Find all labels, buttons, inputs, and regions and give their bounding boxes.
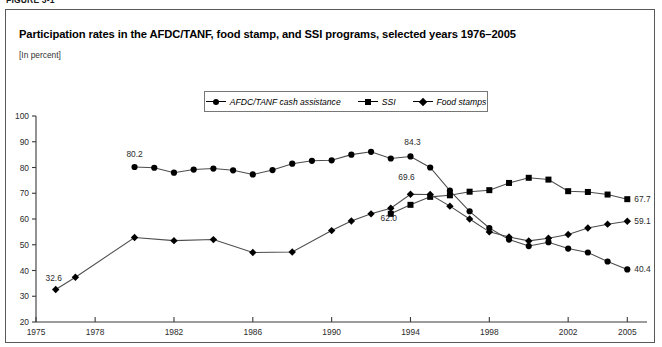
x-tick-label: 2005 bbox=[618, 327, 637, 337]
data-point bbox=[249, 249, 256, 256]
data-point bbox=[191, 166, 197, 172]
data-point bbox=[367, 210, 374, 217]
y-tick-label: 50 bbox=[20, 240, 30, 250]
data-point bbox=[585, 249, 591, 255]
data-point bbox=[526, 175, 532, 181]
data-point bbox=[545, 177, 551, 183]
data-point bbox=[466, 215, 473, 222]
data-point bbox=[624, 196, 630, 202]
data-point bbox=[387, 204, 394, 211]
data-point bbox=[269, 167, 275, 173]
data-point bbox=[72, 274, 79, 281]
point-value-label: 32.6 bbox=[46, 273, 63, 283]
point-value-label: 62.0 bbox=[381, 213, 398, 223]
y-axis: 2030405060708090100 bbox=[15, 111, 36, 327]
x-tick-label: 1990 bbox=[322, 327, 341, 337]
data-point bbox=[565, 188, 571, 194]
x-tick-label: 2002 bbox=[559, 327, 578, 337]
data-point bbox=[584, 224, 591, 231]
point-value-label: 67.7 bbox=[634, 194, 651, 204]
data-point bbox=[131, 164, 137, 170]
series-food-stamps bbox=[52, 191, 631, 294]
chart-plot-area: 2030405060708090100 19751978198219861990… bbox=[6, 10, 656, 344]
series-line bbox=[56, 194, 628, 289]
data-point bbox=[328, 227, 335, 234]
data-point bbox=[309, 158, 315, 164]
data-point bbox=[250, 171, 256, 177]
figure-number-label: FIGURE 3-1 bbox=[6, 0, 55, 5]
data-point bbox=[52, 286, 59, 293]
data-point bbox=[407, 202, 413, 208]
point-value-label: 69.6 bbox=[398, 172, 415, 182]
data-point bbox=[467, 189, 473, 195]
data-point bbox=[170, 237, 177, 244]
data-point bbox=[289, 248, 296, 255]
y-tick-label: 60 bbox=[20, 214, 30, 224]
point-value-label: 80.2 bbox=[126, 149, 143, 159]
y-tick-label: 20 bbox=[20, 317, 30, 327]
data-point bbox=[604, 220, 611, 227]
point-value-label: 84.3 bbox=[404, 137, 421, 147]
data-point bbox=[565, 246, 571, 252]
series-layer bbox=[52, 149, 631, 294]
data-point bbox=[210, 236, 217, 243]
data-point bbox=[486, 187, 492, 193]
point-value-label: 59.1 bbox=[634, 216, 651, 226]
data-point bbox=[289, 161, 295, 167]
x-tick-label: 1986 bbox=[243, 327, 262, 337]
data-point bbox=[407, 153, 413, 159]
x-axis: 197519781982198619901994199820022005 bbox=[27, 317, 647, 337]
x-tick-label: 1975 bbox=[27, 327, 46, 337]
data-point bbox=[624, 266, 630, 272]
y-tick-label: 30 bbox=[20, 291, 30, 301]
data-point bbox=[506, 180, 512, 186]
x-tick-label: 1982 bbox=[165, 327, 184, 337]
x-tick-label: 1994 bbox=[401, 327, 420, 337]
point-value-label: 40.4 bbox=[634, 264, 651, 274]
figure-root: FIGURE 3-1 Participation rates in the AF… bbox=[0, 0, 662, 347]
data-point bbox=[407, 191, 414, 198]
data-point bbox=[230, 167, 236, 173]
data-point bbox=[348, 152, 354, 158]
data-point bbox=[564, 231, 571, 238]
data-point bbox=[151, 165, 157, 171]
series-ssi bbox=[388, 175, 631, 217]
y-tick-label: 90 bbox=[20, 137, 30, 147]
x-tick-label: 1978 bbox=[86, 327, 105, 337]
data-point bbox=[427, 164, 433, 170]
data-point bbox=[348, 217, 355, 224]
data-point bbox=[604, 258, 610, 264]
y-tick-label: 40 bbox=[20, 266, 30, 276]
y-tick-label: 70 bbox=[20, 188, 30, 198]
data-point bbox=[368, 149, 374, 155]
data-point bbox=[446, 202, 453, 209]
y-tick-label: 100 bbox=[15, 111, 29, 121]
data-point bbox=[131, 234, 138, 241]
data-point bbox=[605, 192, 611, 198]
data-point bbox=[329, 157, 335, 163]
data-point bbox=[210, 165, 216, 171]
data-point bbox=[525, 237, 532, 244]
data-point bbox=[624, 218, 631, 225]
data-point bbox=[447, 192, 453, 198]
y-tick-label: 80 bbox=[20, 163, 30, 173]
data-point bbox=[585, 189, 591, 195]
data-point bbox=[467, 208, 473, 214]
data-point bbox=[388, 155, 394, 161]
data-point bbox=[171, 170, 177, 176]
x-tick-label: 1998 bbox=[480, 327, 499, 337]
figure-panel: Participation rates in the AFDC/TANF, fo… bbox=[5, 9, 655, 343]
point-label-layer: 32.680.262.069.684.367.759.140.4 bbox=[46, 137, 651, 282]
